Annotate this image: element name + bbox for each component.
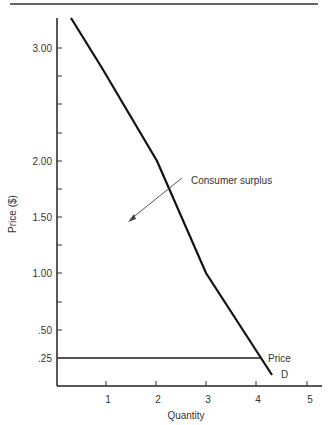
x-tick-label: 5	[307, 394, 313, 405]
chart: 3.00 2.00 1.50 1.00 .50 .25 1 2 3 4 5 Qu…	[0, 0, 328, 425]
y-tick-label: 2.00	[33, 156, 53, 167]
demand-curve	[71, 18, 272, 375]
x-axis-title: Quantity	[167, 410, 204, 421]
y-tick-label: 1.00	[33, 268, 53, 279]
y-tick-label: 3.00	[33, 43, 53, 54]
x-tick-label: 4	[255, 394, 261, 405]
y-tick-label: .50	[38, 325, 52, 336]
x-tick-label: 2	[155, 394, 161, 405]
consumer-surplus-label: Consumer surplus	[191, 175, 272, 186]
y-tick-label: 1.50	[33, 212, 53, 223]
x-tick-label: 3	[205, 394, 211, 405]
arrow-head-icon	[128, 214, 136, 222]
y-tick-label: .25	[38, 353, 52, 364]
x-tick-label: 1	[105, 394, 111, 405]
demand-label: D	[281, 369, 288, 380]
y-axis-title: Price ($)	[7, 195, 18, 233]
price-label: Price	[268, 353, 291, 364]
